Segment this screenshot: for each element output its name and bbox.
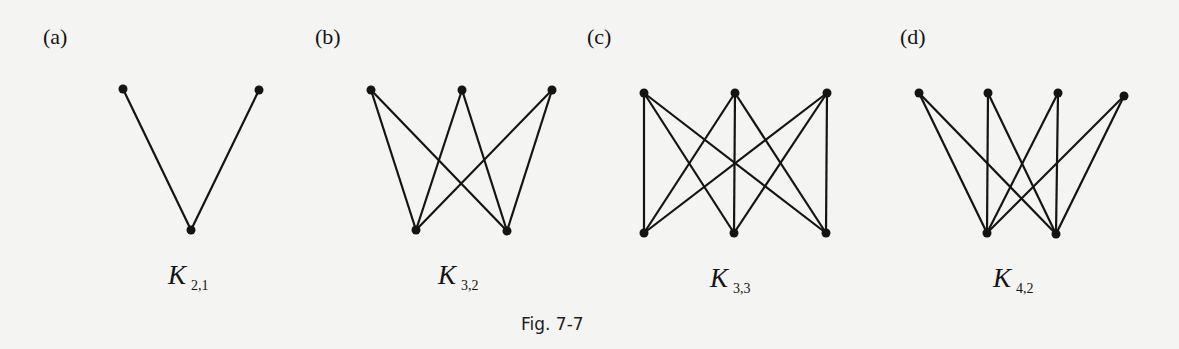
graph-letter: K	[168, 260, 186, 290]
edge	[507, 90, 552, 231]
graph-name-d: K4,2	[993, 265, 1034, 292]
edge	[919, 93, 987, 233]
vertex	[187, 226, 196, 235]
vertex	[731, 89, 740, 98]
vertex	[984, 89, 993, 98]
vertex	[1120, 92, 1129, 101]
panel-label-a: (a)	[43, 26, 67, 48]
vertex	[915, 89, 924, 98]
graph-letter: K	[438, 260, 456, 290]
vertex	[548, 86, 557, 95]
graph-subscript: 4,2	[1016, 281, 1034, 296]
graph-letter: K	[710, 263, 728, 293]
vertex	[255, 86, 264, 95]
edge	[416, 90, 552, 230]
vertex	[983, 229, 992, 238]
edges-layer	[123, 89, 1124, 234]
vertex	[367, 86, 376, 95]
graph-subscript: 2,1	[191, 278, 209, 293]
vertex	[458, 86, 467, 95]
graph-name-c: K3,3	[710, 265, 751, 292]
edge	[123, 89, 191, 230]
graph-name-b: K3,2	[438, 262, 479, 289]
graph-subscript: 3,2	[461, 278, 479, 293]
edge	[1056, 96, 1124, 234]
vertex	[1054, 89, 1063, 98]
edge	[987, 93, 988, 233]
vertex	[1052, 230, 1061, 239]
graph-subscript: 3,3	[733, 281, 751, 296]
graph-letter: K	[993, 263, 1011, 293]
vertex	[730, 229, 739, 238]
edge	[826, 93, 827, 233]
figure-caption: Fig. 7-7	[521, 316, 584, 333]
vertex	[119, 85, 128, 94]
panel-label-d: (d)	[900, 26, 926, 48]
vertex	[412, 226, 421, 235]
vertex	[823, 89, 832, 98]
edge	[371, 90, 416, 230]
edge	[416, 90, 462, 230]
vertex	[503, 227, 512, 236]
edge	[191, 90, 259, 230]
vertices-layer	[119, 85, 1129, 239]
graph-name-a: K2,1	[168, 262, 209, 289]
panel-label-c: (c)	[587, 26, 611, 48]
figure-canvas	[0, 0, 1179, 349]
panel-label-b: (b)	[315, 26, 341, 48]
vertex	[640, 229, 649, 238]
vertex	[640, 89, 649, 98]
vertex	[822, 229, 831, 238]
